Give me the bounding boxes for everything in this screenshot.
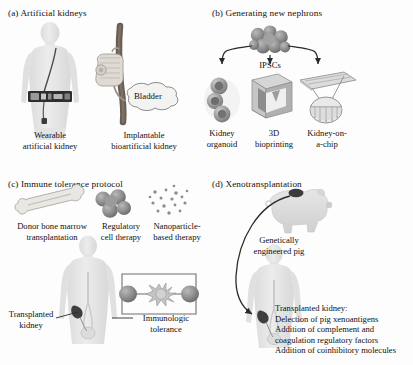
caption-wearable-kidney-line1: Wearable [10,130,90,141]
caption-kidney-on-a-chip-line2: a-chip [298,139,356,150]
caption-nanoparticle-therapy-line2: based therapy [146,232,208,243]
caption-nanoparticle-therapy: Nanoparticle- based therapy [146,221,208,242]
annotation-immunologic-tolerance: Immunologic tolerance [134,313,198,334]
kidney-organoid-illustration [204,77,240,122]
panel-a-title: (a) Artificial kidneys [8,8,87,18]
caption-donor-bone-marrow-line1: Donor bone marrow [6,221,98,232]
caption-kidney-organoid-line2: organoid [196,139,248,150]
panel-b-title: (b) Generating new nephrons [212,8,322,18]
wearable-kidney-illustration [21,22,79,140]
bioprinting-cube-illustration [252,74,292,118]
panel-d-title: (d) Xenotransplantation [212,179,302,189]
caption-nanoparticle-therapy-line1: Nanoparticle- [146,221,208,232]
immunologic-tolerance-diagram [112,274,199,318]
caption-regulatory-cell-therapy-line2: cell therapy [92,232,150,243]
caption-kidney-organoid: Kidney organoid [196,128,248,149]
annotation-immunologic-tolerance-line2: tolerance [134,324,198,335]
caption-implantable-kidney: Implantable bioartificial kidney [94,130,194,151]
caption-implantable-kidney-line2: bioartificial kidney [94,141,194,152]
caption-3d-bioprinting-line1: 3D [248,128,300,139]
caption-kidney-on-a-chip-line1: Kidney-on- [298,128,356,139]
annotation-transplanted-kidney-line2: kidney [4,320,58,331]
caption-donor-bone-marrow-line2: transplantation [6,232,98,243]
figure-root: (a) Artificial kidneys (b) Generating ne… [0,0,413,365]
xeno-note-0: Transplanted kidney: [275,303,396,314]
xeno-note-1: Delection of pig xenoantigens [275,314,396,325]
ipsc-cluster-illustration [249,25,290,53]
caption-regulatory-cell-therapy-line1: Regulatory [92,221,150,232]
xeno-note-4: Addition of coinhibitory molecules [275,345,396,356]
recipient-body-illustration [56,236,117,345]
caption-wearable-kidney-line2: artificial kidney [10,141,90,152]
bladder-callout-label: Bladder [134,91,162,101]
xeno-note-2: Addition of complement and [275,324,396,335]
caption-donor-bone-marrow: Donor bone marrow transplantation [6,221,98,242]
caption-3d-bioprinting-line2: bioprinting [248,139,300,150]
caption-engineered-pig-line2: engineered pig [242,246,316,257]
caption-kidney-organoid-line1: Kidney [196,128,248,139]
caption-regulatory-cell-therapy: Regulatory cell therapy [92,221,150,242]
nanoparticle-illustration [149,185,189,215]
annotation-transplanted-kidney-line1: Transplanted [4,309,58,320]
panel-c-title: (c) Immune tolerance protocol [8,179,123,189]
caption-engineered-pig-line1: Genetically [242,235,316,246]
xeno-note-3: coagulation regulatory factors [275,335,396,346]
caption-kidney-on-a-chip: Kidney-on- a-chip [298,128,356,149]
ipsc-source-label: IPSCs [246,60,294,71]
kidney-on-chip-illustration [300,72,356,123]
caption-implantable-kidney-line1: Implantable [94,130,194,141]
caption-3d-bioprinting: 3D bioprinting [248,128,300,149]
annotation-immunologic-tolerance-line1: Immunologic [134,313,198,324]
caption-engineered-pig: Genetically engineered pig [242,235,316,256]
caption-wearable-kidney: Wearable artificial kidney [10,130,90,151]
xenotransplant-notes: Transplanted kidney: Delection of pig xe… [275,303,396,356]
regulatory-cell-illustration [95,189,131,218]
annotation-transplanted-kidney: Transplanted kidney [4,309,58,330]
implantable-kidney-illustration [96,26,126,122]
engineered-pig-illustration [266,189,332,233]
